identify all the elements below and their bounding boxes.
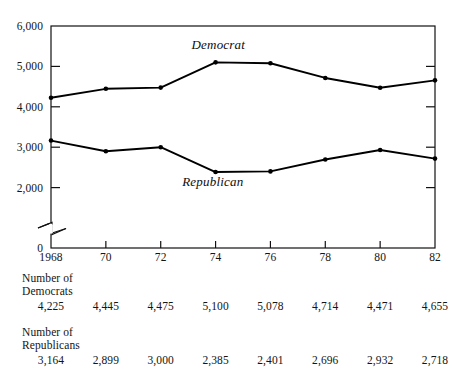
table-cell-republicans: 2,932 — [367, 354, 393, 366]
table-cell-democrats: 4,225 — [38, 300, 64, 312]
data-point-marker — [433, 78, 438, 83]
data-point-marker — [104, 87, 109, 92]
series-line-democrat — [51, 62, 435, 97]
data-point-marker — [49, 95, 54, 100]
table-values-democrats: 4,2254,4454,4755,1005,0784,7144,4714,655 — [0, 300, 456, 316]
data-point-marker — [378, 85, 383, 90]
x-tick-label: 76 — [265, 251, 277, 263]
axis-break-icon — [38, 223, 66, 235]
plot-frame — [51, 26, 435, 248]
table-cell-republicans: 2,899 — [93, 354, 119, 366]
y-tick-label: 3,000 — [0, 141, 43, 153]
table-row-label-democrats-line2: Democrats — [22, 285, 73, 297]
table-cell-republicans: 2,696 — [312, 354, 338, 366]
x-tick-label: 1968 — [39, 251, 62, 263]
table-cell-republicans: 3,164 — [38, 354, 64, 366]
y-axis-ticks — [51, 66, 60, 187]
table-cell-republicans: 2,718 — [422, 354, 448, 366]
x-axis-ticks — [106, 241, 380, 248]
table-row-label-democrats-line1: Number of — [22, 272, 73, 284]
data-series-group — [49, 60, 438, 174]
table-cell-democrats: 5,078 — [257, 300, 283, 312]
y-tick-label: 4,000 — [0, 101, 43, 113]
table-values-republicans: 3,1642,8993,0002,3852,4012,6962,9322,718 — [0, 354, 456, 370]
data-point-marker — [104, 149, 109, 154]
table-cell-democrats: 4,475 — [148, 300, 174, 312]
x-tick-label: 74 — [210, 251, 222, 263]
y-axis-ticks-right — [426, 66, 435, 187]
data-point-marker — [268, 169, 273, 174]
data-table: Number ofDemocrats 4,2254,4454,4755,1005… — [0, 268, 456, 390]
data-point-marker — [323, 76, 328, 81]
series-annotation-republican: Republican — [182, 174, 243, 190]
data-point-marker — [158, 145, 163, 150]
data-point-marker — [268, 61, 273, 66]
table-cell-democrats: 4,471 — [367, 300, 393, 312]
y-tick-label: 2,000 — [0, 182, 43, 194]
table-cell-republicans: 2,385 — [202, 354, 228, 366]
table-cell-democrats: 4,714 — [312, 300, 338, 312]
table-row-label-republicans: Number ofRepublicans — [22, 326, 80, 352]
table-row-label-democrats: Number ofDemocrats — [22, 272, 73, 298]
x-tick-label: 78 — [319, 251, 331, 263]
y-tick-label: 6,000 — [0, 20, 43, 32]
table-row-label-republicans-line1: Number of — [22, 326, 73, 338]
series-annotation-democrat: Democrat — [192, 37, 246, 53]
y-tick-label: 5,000 — [0, 60, 43, 72]
table-row-label-republicans-line2: Republicans — [22, 339, 80, 351]
table-cell-republicans: 2,401 — [257, 354, 283, 366]
x-tick-label: 82 — [429, 251, 441, 263]
data-point-marker — [433, 156, 438, 161]
table-cell-republicans: 3,000 — [148, 354, 174, 366]
series-line-republican — [51, 141, 435, 172]
plot-frame-rect — [51, 26, 435, 248]
data-point-marker — [378, 148, 383, 153]
data-point-marker — [323, 157, 328, 162]
data-point-marker — [158, 85, 163, 90]
chart-figure: 2,0003,0004,0005,0006,0000 1968707274767… — [0, 0, 456, 390]
y-tick-label-zero: 0 — [0, 242, 43, 254]
x-tick-label: 72 — [155, 251, 167, 263]
data-point-marker — [49, 138, 54, 143]
x-tick-label: 80 — [374, 251, 386, 263]
table-cell-democrats: 4,655 — [422, 300, 448, 312]
table-cell-democrats: 4,445 — [93, 300, 119, 312]
x-tick-label: 70 — [100, 251, 112, 263]
table-cell-democrats: 5,100 — [202, 300, 228, 312]
data-point-marker — [213, 60, 218, 65]
